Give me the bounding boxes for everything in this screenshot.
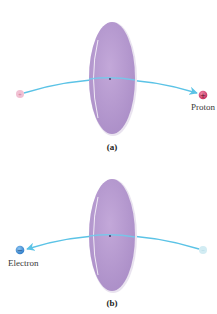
electron-initial-ghost-icon: − xyxy=(199,246,207,254)
proton-icon: + xyxy=(199,91,208,100)
svg-text:+: + xyxy=(200,92,206,100)
diagram-canvas: + + Proton (a) − xyxy=(0,0,217,314)
proton-label: Proton xyxy=(191,102,216,112)
electron-icon: − xyxy=(16,246,25,255)
electron-label: Electron xyxy=(8,258,39,268)
proton-initial-ghost-icon: + xyxy=(16,90,24,98)
panel-a: + + Proton (a) xyxy=(16,22,215,152)
panel-b: − − Electron (b) xyxy=(8,179,207,308)
svg-text:−: − xyxy=(17,247,23,255)
sheet-center-dot xyxy=(109,235,111,237)
caption-a: (a) xyxy=(107,142,118,152)
sheet-center-dot xyxy=(109,78,111,80)
caption-b: (b) xyxy=(107,298,118,308)
